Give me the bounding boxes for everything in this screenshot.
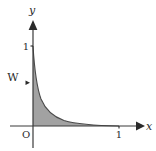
y-axis-arrow-icon xyxy=(29,20,38,30)
y-axis-label: y xyxy=(28,4,36,17)
y-tick-label-one: 1 xyxy=(23,41,29,52)
x-axis-label: x xyxy=(146,120,153,133)
region-pointer-arrow-icon xyxy=(26,81,31,86)
shaded-region-W xyxy=(33,46,119,126)
region-label-W: W xyxy=(7,71,19,84)
x-axis-arrow-icon xyxy=(136,122,145,131)
x-tick-label-one: 1 xyxy=(116,129,122,140)
origin-label: O xyxy=(22,129,30,140)
figure-container: y x 1 1 O W xyxy=(0,0,156,151)
plot-svg: y x 1 1 O W xyxy=(0,0,156,151)
